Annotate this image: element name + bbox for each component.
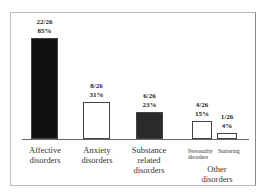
- category-label-anxiety: Anxiety disorders: [67, 145, 127, 165]
- percent-label: 85%: [25, 27, 65, 36]
- bar-1: [31, 38, 58, 139]
- label-line: Anxiety: [67, 145, 127, 155]
- label-line: disorders: [187, 174, 247, 184]
- label-line: Affective: [15, 145, 75, 155]
- bar-value-label: 8/2631%: [77, 82, 117, 100]
- label-line: Stuttering: [218, 148, 240, 154]
- count-label: 6/26: [130, 92, 170, 101]
- percent-label: 31%: [77, 91, 117, 100]
- category-label-affective: Affective disorders: [15, 145, 75, 165]
- label-line: disorders: [188, 154, 213, 160]
- count-label: 1/26: [207, 113, 247, 122]
- bar-value-label: 6/2623%: [130, 92, 170, 110]
- category-label-substance: Substance related disorders: [119, 145, 179, 175]
- label-line: Other: [187, 164, 247, 174]
- label-line: Substance: [119, 145, 179, 155]
- bar-value-label: 1/264%: [207, 113, 247, 131]
- percent-label: 4%: [207, 122, 247, 131]
- count-label: 22/26: [25, 18, 65, 27]
- label-line: disorders: [119, 165, 179, 175]
- label-line: disorders: [67, 155, 127, 165]
- category-label-personality: Personality disorders: [188, 148, 213, 160]
- group-label-other: Other disorders: [187, 164, 247, 184]
- label-line: disorders: [15, 155, 75, 165]
- bar-value-label: 22/2685%: [25, 18, 65, 36]
- count-label: 8/26: [77, 82, 117, 91]
- bar-5: [217, 133, 237, 139]
- bar-3: [136, 112, 163, 139]
- x-axis-baseline: [22, 139, 249, 140]
- count-label: 4/26: [182, 101, 222, 110]
- bar-2: [83, 102, 110, 139]
- percent-label: 23%: [130, 101, 170, 110]
- label-line: related: [119, 155, 179, 165]
- category-label-stuttering: Stuttering: [218, 148, 240, 154]
